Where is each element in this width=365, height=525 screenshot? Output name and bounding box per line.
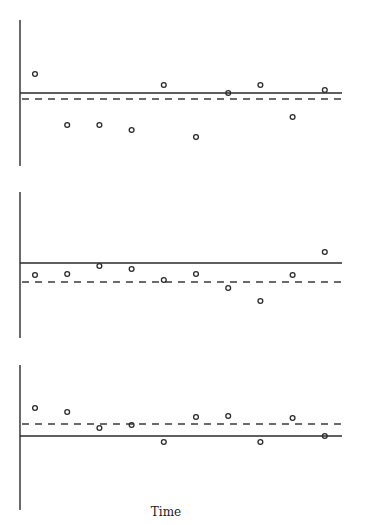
data-point [65,410,70,415]
x-axis-label: Time [151,505,181,519]
data-point [258,299,263,304]
data-point [33,406,38,411]
data-point [194,272,199,277]
data-point [129,128,134,133]
data-point [129,267,134,272]
data-point [161,278,166,283]
data-point [65,272,70,277]
data-point [258,440,263,445]
data-point [226,286,231,291]
data-point [33,273,38,278]
panel-2 [20,192,342,338]
data-point [194,135,199,140]
data-point [322,250,327,255]
data-point [97,426,102,431]
data-point [226,414,231,419]
data-point [97,264,102,269]
data-point [161,440,166,445]
time-series-chart: Time [0,0,365,525]
data-point [97,123,102,128]
data-point [290,416,295,421]
data-point [65,123,70,128]
panel-1 [20,20,342,166]
data-point [290,273,295,278]
data-point [33,72,38,77]
data-point [194,415,199,420]
data-point [258,83,263,88]
data-point [290,115,295,120]
panel-3 [20,365,342,510]
data-point [322,88,327,93]
data-point [161,83,166,88]
